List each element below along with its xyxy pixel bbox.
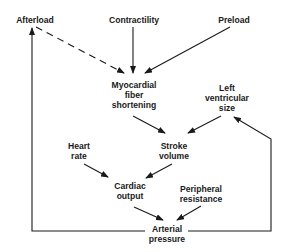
node-myocardial-fiber-shortening: Myocardial fiber shortening: [112, 80, 157, 110]
edge-afterload-to-myocardial: [36, 27, 124, 73]
edge-peripheral-to-arterial: [177, 206, 201, 220]
edge-preload-to-myocardial: [145, 27, 230, 73]
node-cardiac-output: Cardiac output: [114, 181, 146, 201]
edge-cardiac-to-arterial: [134, 207, 163, 220]
node-heart-rate: Heart rate: [68, 141, 90, 161]
edge-arterial-to-lvsize: [188, 117, 271, 231]
edge-myocardial-to-stroke: [133, 116, 165, 133]
node-left-ventricular-size: Left ventricular size: [205, 83, 249, 113]
edge-stroke-to-cardiac: [146, 164, 172, 178]
node-arterial-pressure: Arterial pressure: [149, 224, 185, 244]
node-preload: Preload: [218, 15, 250, 25]
edge-heartrate-to-cardiac: [84, 164, 108, 177]
node-contractility: Contractility: [109, 15, 159, 25]
node-stroke-volume: Stroke volume: [159, 141, 189, 161]
edge-lvsize-to-stroke: [188, 116, 221, 133]
cardiac-regulation-diagram: Afterload Contractility Preload Myocardi…: [0, 0, 289, 252]
node-peripheral-resistance: Peripheral resistance: [180, 184, 223, 204]
node-afterload: Afterload: [16, 15, 54, 25]
diagram-arrows: [0, 0, 289, 252]
